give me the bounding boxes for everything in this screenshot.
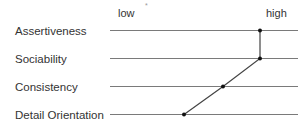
point-consistency: [221, 85, 225, 89]
scale-lines: [110, 31, 298, 115]
profile-points: [182, 29, 262, 117]
point-detail-orientation: [182, 113, 186, 117]
trait-profile-diagram: [0, 0, 308, 125]
point-sociability: [258, 57, 262, 61]
point-assertiveness: [258, 29, 262, 33]
profile-line: [184, 31, 260, 115]
